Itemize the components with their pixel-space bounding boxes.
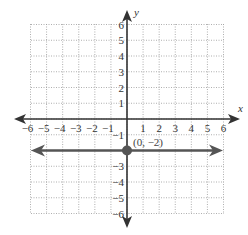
y-tick-label: −6 — [112, 208, 124, 220]
y-tick-label: −4 — [112, 176, 124, 188]
x-tick-label: −6 — [22, 122, 34, 134]
x-tick-label: 4 — [189, 122, 195, 134]
x-tick-label: 1 — [140, 122, 146, 134]
y-tick-label: 2 — [119, 82, 125, 94]
x-tick-label: 5 — [205, 122, 211, 134]
y-tick-label: −3 — [112, 160, 124, 172]
y-axis-label: y — [133, 6, 139, 18]
x-tick-label: 6 — [221, 122, 227, 134]
y-tick-label: 4 — [119, 50, 125, 62]
point-label: (0, −2) — [133, 136, 163, 149]
y-tick-label: 5 — [119, 34, 125, 46]
x-tick-label: −2 — [86, 122, 98, 134]
point-0-neg2 — [122, 146, 132, 156]
axes: x y — [14, 6, 243, 228]
x-tick-label: −3 — [70, 122, 82, 134]
y-tick-label: 6 — [119, 19, 125, 31]
y-tick-label: −5 — [112, 192, 124, 204]
x-tick-label: 2 — [156, 122, 162, 134]
x-tick-label: −5 — [38, 122, 50, 134]
y-tick-label: 3 — [119, 66, 125, 78]
x-axis-label: x — [237, 102, 243, 114]
y-tick-label: 1 — [119, 97, 125, 109]
x-tick-label: 3 — [173, 122, 179, 134]
y-tick-label: −1 — [112, 129, 124, 141]
x-tick-label: −4 — [54, 122, 66, 134]
coordinate-plane: x y −6−5−4−3−2−1123456654321−1−3−4−5−6 (… — [0, 0, 248, 235]
